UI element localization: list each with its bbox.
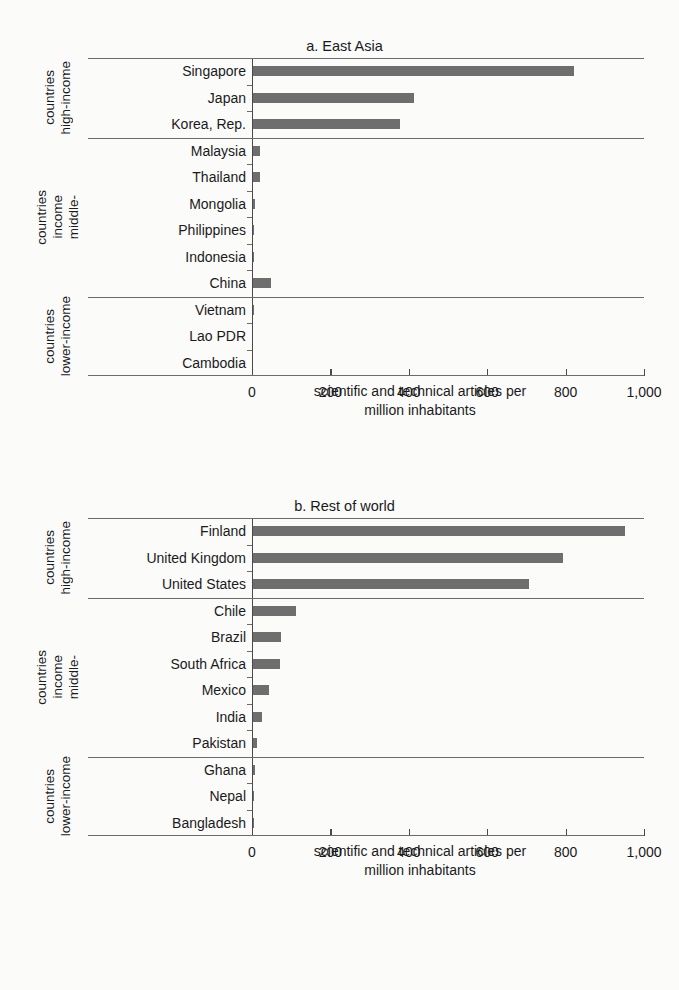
- group-label-line: countries: [42, 769, 57, 824]
- chart-panel-east-asia: a. East Asia high-incomecountriesmiddle-…: [0, 34, 679, 480]
- category-label: Korea, Rep.: [171, 117, 246, 131]
- group-label-line: countries: [42, 70, 57, 125]
- y-minor-tick: [247, 651, 252, 652]
- bar: [253, 119, 400, 129]
- group-separator-line: [88, 757, 644, 758]
- y-axis-line-b: [252, 518, 253, 836]
- bar: [253, 66, 574, 76]
- group-label-high: high-incomecountries: [26, 518, 88, 598]
- group-label-column-b: high-incomecountriesmiddle-incomecountri…: [26, 518, 88, 836]
- group-label-middle: middle-incomecountries: [26, 598, 88, 757]
- category-label: Pakistan: [192, 736, 246, 750]
- group-label-line: income: [50, 655, 65, 699]
- bar: [253, 146, 260, 156]
- group-label-line: countries: [34, 190, 49, 245]
- bar: [253, 199, 255, 209]
- group-label-line: income: [50, 195, 65, 239]
- category-label: Cambodia: [182, 356, 246, 370]
- bar: [253, 632, 281, 642]
- category-label: Thailand: [192, 170, 246, 184]
- y-minor-tick: [247, 111, 252, 112]
- x-axis-tick: [644, 829, 645, 836]
- bar: [253, 553, 563, 563]
- category-label: Mongolia: [189, 197, 246, 211]
- group-separator-line: [88, 835, 644, 836]
- group-label-lower: lower-incomecountries: [26, 757, 88, 837]
- axes-a: 02004006008001,000: [252, 58, 644, 376]
- category-label: Indonesia: [185, 250, 246, 264]
- group-label-line: high-income: [58, 521, 73, 595]
- category-label-column-b: FinlandUnited KingdomUnited StatesChileB…: [92, 518, 252, 836]
- bar: [253, 606, 296, 616]
- group-label-line: countries: [42, 309, 57, 364]
- group-label-line: middle-: [66, 195, 81, 239]
- group-separator-line: [88, 297, 644, 298]
- bar: [253, 818, 254, 828]
- x-axis-caption-b-line2: million inhabitants: [200, 861, 640, 880]
- bar: [253, 93, 414, 103]
- y-minor-tick: [247, 323, 252, 324]
- group-separator-line: [88, 138, 644, 139]
- y-minor-tick: [247, 217, 252, 218]
- bar: [253, 738, 257, 748]
- group-label-middle: middle-incomecountries: [26, 138, 88, 297]
- category-label-column-a: SingaporeJapanKorea, Rep.MalaysiaThailan…: [92, 58, 252, 376]
- category-label: Vietnam: [195, 303, 246, 317]
- figure-page: · · · · · a. East Asia high-incomecountr…: [0, 0, 679, 990]
- category-label: Mexico: [202, 683, 246, 697]
- x-axis-caption-a-line2: million inhabitants: [200, 401, 640, 420]
- y-minor-tick: [247, 810, 252, 811]
- bar: [253, 172, 260, 182]
- category-label: Brazil: [211, 630, 246, 644]
- category-label: Malaysia: [191, 144, 246, 158]
- y-minor-tick: [247, 350, 252, 351]
- y-minor-tick: [247, 191, 252, 192]
- category-label: United States: [162, 577, 246, 591]
- group-label-lower: lower-incomecountries: [26, 297, 88, 377]
- group-label-high: high-incomecountries: [26, 58, 88, 138]
- category-label: Bangladesh: [172, 816, 246, 830]
- x-axis-caption-a-line1: scientific and technical articles per: [314, 383, 526, 399]
- x-axis-tick: [644, 369, 645, 376]
- category-label: United Kingdom: [146, 551, 246, 565]
- y-minor-tick: [247, 545, 252, 546]
- y-minor-tick: [247, 164, 252, 165]
- group-label-line: lower-income: [58, 756, 73, 836]
- group-separator-line: [88, 58, 644, 59]
- bar: [253, 685, 269, 695]
- y-minor-tick: [247, 730, 252, 731]
- category-label: Lao PDR: [189, 329, 246, 343]
- category-label: South Africa: [171, 657, 247, 671]
- category-label: Singapore: [182, 64, 246, 78]
- y-minor-tick: [247, 677, 252, 678]
- group-label-line: countries: [34, 650, 49, 705]
- category-label: India: [216, 710, 246, 724]
- chart-panel-rest-of-world: b. Rest of world high-incomecountriesmid…: [0, 494, 679, 940]
- group-separator-line: [88, 375, 644, 376]
- group-label-line: middle-: [66, 655, 81, 699]
- group-separator-line: [88, 518, 644, 519]
- x-axis-caption-b: scientific and technical articles per mi…: [200, 842, 640, 880]
- y-minor-tick: [247, 571, 252, 572]
- plot-area-b: high-incomecountriesmiddle-incomecountri…: [0, 518, 679, 848]
- y-axis-line-a: [252, 58, 253, 376]
- x-axis-caption-b-line1: scientific and technical articles per: [314, 843, 526, 859]
- bar: [253, 712, 262, 722]
- category-label: Philippines: [178, 223, 246, 237]
- bar: [253, 526, 625, 536]
- cropped-header-text: · · · · ·: [0, 0, 679, 10]
- bar: [253, 765, 255, 775]
- y-minor-tick: [247, 244, 252, 245]
- y-minor-tick: [247, 783, 252, 784]
- y-minor-tick: [247, 704, 252, 705]
- y-minor-tick: [247, 624, 252, 625]
- category-label: Finland: [200, 524, 246, 538]
- bar: [253, 659, 280, 669]
- x-axis-caption-a: scientific and technical articles per mi…: [200, 382, 640, 420]
- category-label: Ghana: [204, 763, 246, 777]
- category-label: China: [209, 276, 246, 290]
- group-label-column-a: high-incomecountriesmiddle-incomecountri…: [26, 58, 88, 376]
- axes-b: 02004006008001,000: [252, 518, 644, 836]
- category-label: Japan: [208, 91, 246, 105]
- group-label-line: lower-income: [58, 296, 73, 376]
